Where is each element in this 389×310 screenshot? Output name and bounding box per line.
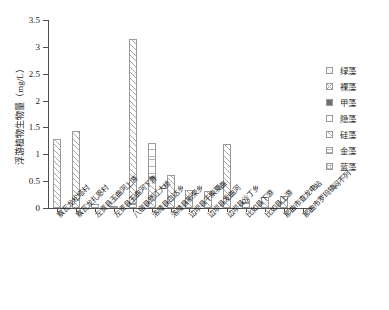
legend-swatch-icon [326, 147, 333, 154]
legend-label: 裸藻 [340, 80, 356, 92]
legend-label: 绿藻 [340, 64, 356, 76]
legend-swatch-icon [326, 99, 333, 106]
legend-item[interactable]: 硅藻 [326, 126, 356, 142]
legend-item[interactable]: 甲藻 [326, 94, 356, 110]
legend-item[interactable]: 裸藻 [326, 78, 356, 94]
legend-swatch-icon [326, 115, 333, 122]
legend-item[interactable]: 金藻 [326, 142, 356, 158]
legend-item[interactable]: 隐藻 [326, 110, 356, 126]
legend-label: 蓝藻 [340, 160, 356, 172]
legend-label: 金藻 [340, 144, 356, 156]
legend-swatch-icon [326, 67, 333, 74]
legend-item[interactable]: 蓝藻 [326, 158, 356, 174]
legend-swatch-icon [326, 131, 333, 138]
legend-label: 甲藻 [340, 96, 356, 108]
legend-swatch-icon [326, 163, 333, 170]
legend-swatch-icon [326, 83, 333, 90]
legend: 绿藻裸藻甲藻隐藻硅藻金藻蓝藻 [326, 62, 356, 174]
legend-item[interactable]: 绿藻 [326, 62, 356, 78]
phytoplankton-biomass-bar-chart: 浮游植物生物量（mg/L） 00.511.522.533.5 察瓦龙松塔村察瓦龙… [0, 0, 389, 310]
legend-label: 隐藻 [340, 112, 356, 124]
legend-label: 硅藻 [340, 128, 356, 140]
